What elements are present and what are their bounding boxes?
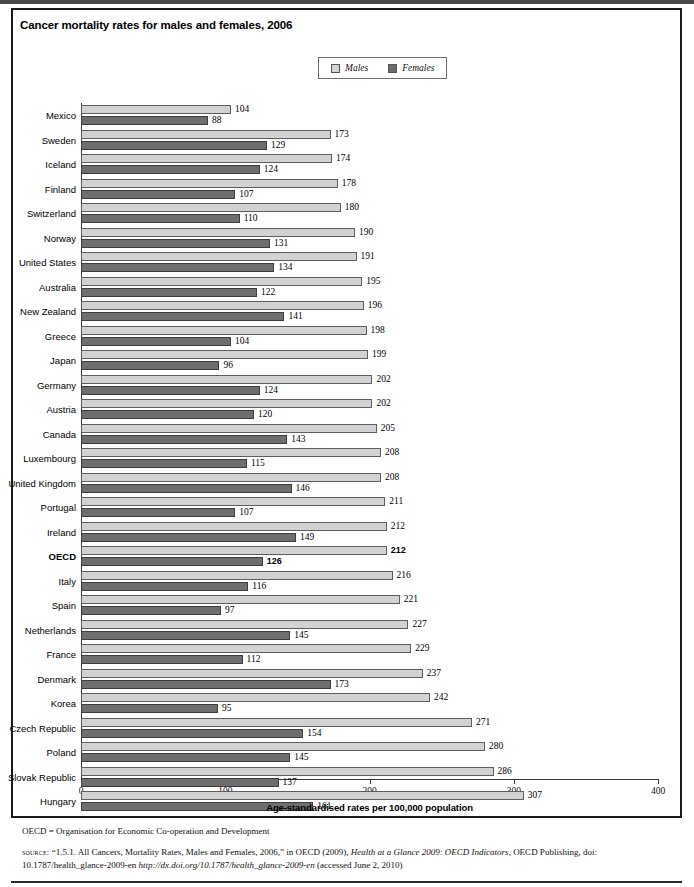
bar-females-slovak-republic[interactable] bbox=[81, 778, 279, 787]
bar-value-males: 216 bbox=[397, 571, 411, 580]
category-label-iceland: Iceland bbox=[0, 159, 76, 170]
bar-females-sweden[interactable] bbox=[81, 141, 267, 150]
bar-males-italy[interactable] bbox=[81, 571, 393, 580]
bar-males-hungary[interactable] bbox=[81, 791, 524, 800]
bar-females-canada[interactable] bbox=[81, 435, 287, 444]
bar-males-new-zealand[interactable] bbox=[81, 301, 364, 310]
category-label-japan: Japan bbox=[0, 355, 76, 366]
bar-males-austria[interactable] bbox=[81, 399, 372, 408]
category-label-norway: Norway bbox=[0, 233, 76, 244]
bar-females-portugal[interactable] bbox=[81, 508, 235, 517]
bar-females-oecd[interactable] bbox=[81, 557, 263, 566]
figure-page: Cancer mortality rates for males and fem… bbox=[0, 0, 694, 887]
bar-females-austria[interactable] bbox=[81, 410, 254, 419]
bar-value-females: 124 bbox=[264, 165, 278, 174]
bar-males-mexico[interactable] bbox=[81, 105, 231, 114]
bar-females-korea[interactable] bbox=[81, 704, 218, 713]
bar-females-germany[interactable] bbox=[81, 386, 260, 395]
category-label-united-states: United States bbox=[0, 257, 76, 268]
source-text-1: “1.5.1. All Cancers, Mortality Rates, Ma… bbox=[52, 847, 351, 857]
chart-row: Korea24295 bbox=[0, 693, 694, 718]
bar-males-australia[interactable] bbox=[81, 277, 362, 286]
category-label-germany: Germany bbox=[0, 380, 76, 391]
bar-value-females: 145 bbox=[294, 753, 308, 762]
category-label-luxembourg: Luxembourg bbox=[0, 453, 76, 464]
chart-row: OECD212126 bbox=[0, 546, 694, 571]
bar-females-norway[interactable] bbox=[81, 239, 270, 248]
source-italic-2: http://dx.doi.org/10.1787/health_glance-… bbox=[138, 860, 314, 870]
chart-row: Australia195122 bbox=[0, 277, 694, 302]
bar-males-luxembourg[interactable] bbox=[81, 448, 381, 457]
bar-value-males: 271 bbox=[476, 718, 490, 727]
bar-males-germany[interactable] bbox=[81, 375, 372, 384]
bar-females-new-zealand[interactable] bbox=[81, 312, 284, 321]
chart-row: France229112 bbox=[0, 644, 694, 669]
bar-females-ireland[interactable] bbox=[81, 533, 296, 542]
bar-females-greece[interactable] bbox=[81, 337, 231, 346]
bar-males-czech-republic[interactable] bbox=[81, 718, 472, 727]
bar-males-greece[interactable] bbox=[81, 326, 367, 335]
bar-males-united-kingdom[interactable] bbox=[81, 473, 381, 482]
bar-females-japan[interactable] bbox=[81, 361, 219, 370]
chart-row: Czech Republic271154 bbox=[0, 718, 694, 743]
bar-males-netherlands[interactable] bbox=[81, 620, 408, 629]
bar-males-oecd[interactable] bbox=[81, 546, 387, 555]
bar-males-norway[interactable] bbox=[81, 228, 355, 237]
chart-row: Portugal211107 bbox=[0, 497, 694, 522]
bar-males-sweden[interactable] bbox=[81, 130, 331, 139]
bar-value-males: 191 bbox=[361, 252, 375, 261]
bar-males-iceland[interactable] bbox=[81, 154, 332, 163]
bar-females-iceland[interactable] bbox=[81, 165, 260, 174]
bar-females-poland[interactable] bbox=[81, 753, 290, 762]
bar-males-portugal[interactable] bbox=[81, 497, 385, 506]
bar-males-spain[interactable] bbox=[81, 595, 400, 604]
bar-value-males: 180 bbox=[345, 203, 359, 212]
bar-females-france[interactable] bbox=[81, 655, 243, 664]
bar-females-czech-republic[interactable] bbox=[81, 729, 303, 738]
bar-value-females: 173 bbox=[335, 680, 349, 689]
x-axis-title: Age-standardised rates per 100,000 popul… bbox=[81, 802, 658, 813]
bar-males-switzerland[interactable] bbox=[81, 203, 341, 212]
bar-males-poland[interactable] bbox=[81, 742, 485, 751]
bar-females-switzerland[interactable] bbox=[81, 214, 240, 223]
bar-value-females: 126 bbox=[267, 557, 282, 566]
bar-value-males: 237 bbox=[427, 669, 441, 678]
bar-males-japan[interactable] bbox=[81, 350, 368, 359]
bar-males-denmark[interactable] bbox=[81, 669, 423, 678]
bar-value-males: 190 bbox=[359, 228, 373, 237]
bar-females-luxembourg[interactable] bbox=[81, 459, 247, 468]
bar-value-females: 122 bbox=[261, 288, 275, 297]
bar-males-ireland[interactable] bbox=[81, 522, 387, 531]
bar-males-finland[interactable] bbox=[81, 179, 338, 188]
bar-males-united-states[interactable] bbox=[81, 252, 357, 261]
bar-females-spain[interactable] bbox=[81, 606, 221, 615]
category-label-france: France bbox=[0, 649, 76, 660]
bar-value-females: 112 bbox=[247, 655, 261, 664]
bar-males-france[interactable] bbox=[81, 644, 411, 653]
bar-value-females: 95 bbox=[222, 704, 232, 713]
bar-value-males: 205 bbox=[381, 424, 395, 433]
bar-females-italy[interactable] bbox=[81, 582, 248, 591]
category-label-austria: Austria bbox=[0, 404, 76, 415]
bar-males-slovak-republic[interactable] bbox=[81, 767, 494, 776]
bar-value-males: 212 bbox=[391, 522, 405, 531]
bar-females-denmark[interactable] bbox=[81, 680, 331, 689]
chart-row: Finland178107 bbox=[0, 179, 694, 204]
bar-females-australia[interactable] bbox=[81, 288, 257, 297]
category-label-korea: Korea bbox=[0, 698, 76, 709]
bar-males-canada[interactable] bbox=[81, 424, 377, 433]
bar-males-korea[interactable] bbox=[81, 693, 430, 702]
bar-females-netherlands[interactable] bbox=[81, 631, 290, 640]
bar-value-females: 141 bbox=[288, 312, 302, 321]
bar-value-females: 143 bbox=[291, 435, 305, 444]
chart-row: Germany202124 bbox=[0, 375, 694, 400]
bar-value-females: 134 bbox=[278, 263, 292, 272]
figure-source: source: “1.5.1. All Cancers, Mortality R… bbox=[22, 846, 674, 871]
bar-females-mexico[interactable] bbox=[81, 116, 208, 125]
category-label-spain: Spain bbox=[0, 600, 76, 611]
bar-females-united-kingdom[interactable] bbox=[81, 484, 292, 493]
chart-row: Iceland174124 bbox=[0, 154, 694, 179]
bar-females-united-states[interactable] bbox=[81, 263, 274, 272]
bar-females-finland[interactable] bbox=[81, 190, 235, 199]
figure-note: OECD = Organisation for Economic Co-oper… bbox=[22, 826, 270, 836]
